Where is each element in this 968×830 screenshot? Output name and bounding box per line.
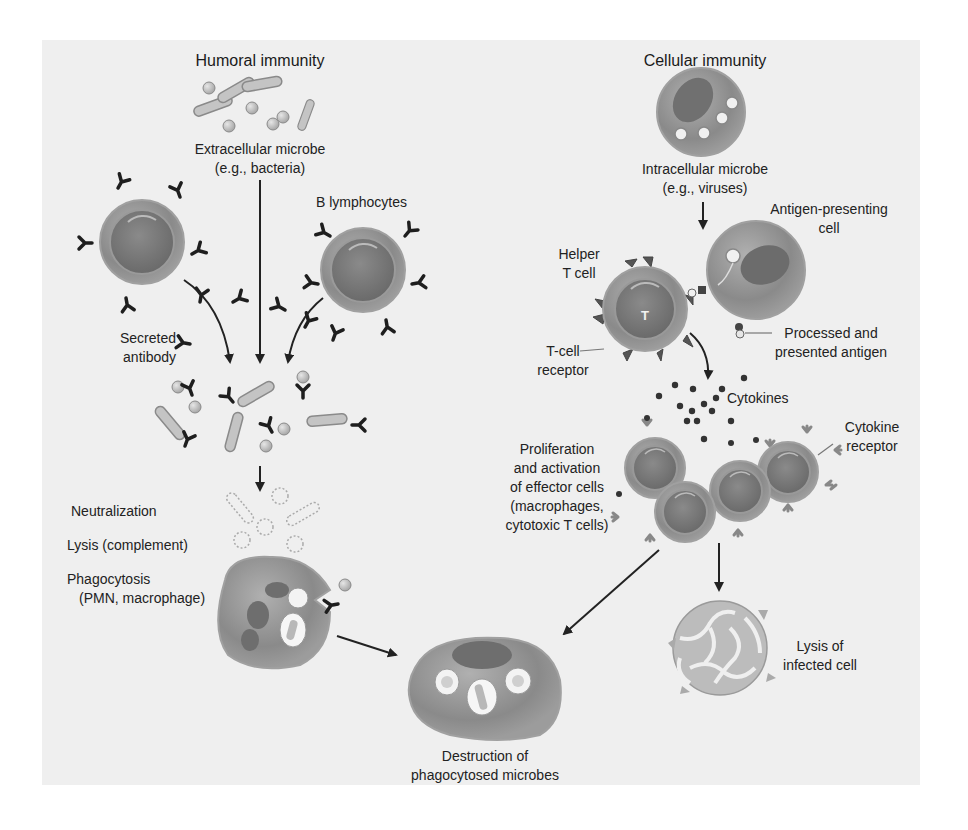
intracellular-microbe-label: Intracellular microbe (e.g., viruses) — [620, 160, 790, 198]
presented-antigen-label: Processed and presented antigen — [766, 324, 896, 362]
t-cell-receptor-label: T-cell receptor — [523, 342, 603, 380]
b-lymphocyte-left — [100, 200, 184, 284]
phagocytosis-label: Phagocytosis (PMN, macrophage) — [67, 570, 205, 608]
destruction-macrophage — [409, 638, 561, 740]
secreted-antibody-label: Secreted antibody — [96, 329, 176, 367]
b-lymphocytes-label: B lymphocytes — [316, 193, 407, 212]
lysis-infected-cell-label: Lysis of infected cell — [770, 637, 870, 675]
opsonized-microbes — [153, 371, 365, 453]
helper-t-cell-letter: T — [641, 306, 649, 325]
extracellular-microbe-label: Extracellular microbe (e.g., bacteria) — [170, 140, 350, 178]
neutralized-microbes — [225, 488, 321, 552]
extracellular-bacteria-icon — [192, 76, 315, 132]
lysis-complement-label: Lysis (complement) — [67, 536, 188, 555]
cytokine-receptor-label: Cytokine receptor — [832, 418, 912, 456]
immunity-illustration — [0, 0, 968, 830]
virus-infected-cell — [657, 68, 745, 156]
apc-label: Antigen-presenting cell — [754, 200, 904, 238]
effector-cells-label: Proliferation and activation of effector… — [490, 440, 624, 535]
helper-t-cell-label: Helper T cell — [534, 245, 624, 283]
cytokines-label: Cytokines — [727, 389, 788, 408]
humoral-immunity-title: Humoral immunity — [175, 51, 345, 71]
destruction-label: Destruction of phagocytosed microbes — [395, 747, 575, 785]
neutralization-label: Neutralization — [71, 502, 157, 521]
cellular-immunity-title: Cellular immunity — [625, 51, 785, 71]
cytokine-dots — [656, 375, 747, 442]
lysed-infected-cell — [668, 601, 776, 695]
effector-cells — [612, 415, 841, 542]
phagocyte-cell — [218, 557, 351, 668]
b-lymphocyte-right — [321, 228, 405, 312]
